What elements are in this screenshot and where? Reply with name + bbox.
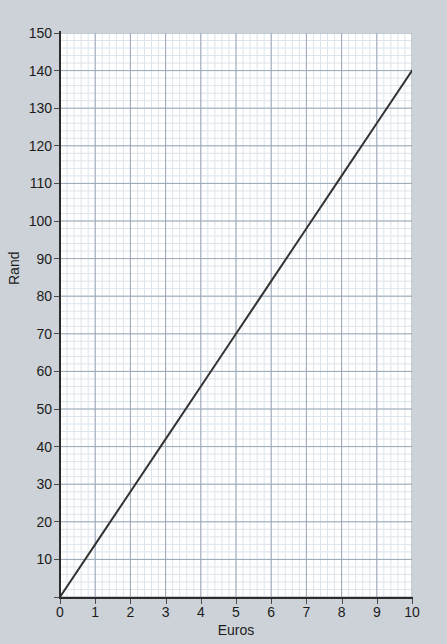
y-tick-label: 100 (2, 214, 52, 228)
y-tick-mark (54, 33, 59, 34)
y-tick-mark (54, 484, 59, 485)
y-tick-mark (54, 145, 59, 146)
y-tick-mark (54, 70, 59, 71)
y-tick-mark (54, 597, 59, 598)
y-axis-tick-labels: 102030405060708090100110120130140150 (0, 0, 52, 644)
x-tick-label: 3 (151, 604, 181, 620)
y-tick-mark (54, 296, 59, 297)
y-axis-line (59, 31, 61, 599)
y-tick-mark (54, 409, 59, 410)
x-tick-label: 8 (327, 604, 357, 620)
y-tick-label: 60 (2, 364, 52, 378)
clipped-text-bottom (0, 634, 447, 643)
x-tick-label: 10 (397, 604, 427, 620)
chart-figure: 102030405060708090100110120130140150 012… (0, 0, 447, 644)
y-tick-label: 140 (2, 64, 52, 78)
y-tick-label: 30 (2, 477, 52, 491)
y-tick-mark (54, 258, 59, 259)
plot-area (60, 33, 412, 597)
y-tick-mark (54, 371, 59, 372)
data-series-line (60, 33, 412, 597)
y-tick-mark (54, 559, 59, 560)
clipped-text-top (0, 0, 447, 9)
y-tick-mark (54, 521, 59, 522)
y-tick-label: 130 (2, 101, 52, 115)
y-tick-label: 150 (2, 26, 52, 40)
y-axis-title: Rand (6, 252, 22, 285)
y-tick-label: 80 (2, 289, 52, 303)
x-tick-label: 1 (80, 604, 110, 620)
y-tick-mark (54, 333, 59, 334)
y-tick-label: 40 (2, 440, 52, 454)
y-tick-mark (54, 221, 59, 222)
y-tick-label: 50 (2, 402, 52, 416)
y-tick-label: 70 (2, 327, 52, 341)
x-tick-label: 9 (362, 604, 392, 620)
y-tick-mark (54, 446, 59, 447)
x-tick-label: 4 (186, 604, 216, 620)
x-tick-label: 0 (45, 604, 75, 620)
x-tick-label: 5 (221, 604, 251, 620)
y-tick-label: 120 (2, 139, 52, 153)
y-tick-label: 20 (2, 515, 52, 529)
y-tick-mark (54, 183, 59, 184)
x-tick-label: 7 (291, 604, 321, 620)
y-tick-mark (54, 108, 59, 109)
x-tick-label: 6 (256, 604, 286, 620)
y-tick-label: 110 (2, 176, 52, 190)
x-tick-label: 2 (115, 604, 145, 620)
y-tick-label: 10 (2, 552, 52, 566)
